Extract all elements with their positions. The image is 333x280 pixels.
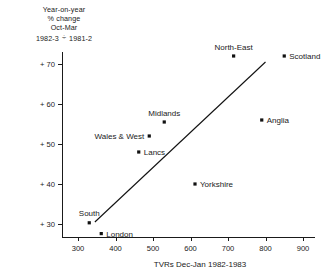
x-tick-label-800: 800: [259, 244, 272, 253]
data-point-north-east: North-East: [215, 43, 254, 58]
point-label: South: [79, 209, 100, 218]
trend-line: [95, 62, 266, 222]
x-tick-label-600: 600: [184, 244, 197, 253]
data-point-south: South: [79, 209, 100, 224]
plot-svg: + 30+ 40+ 50+ 60+ 7030040050060070080090…: [0, 0, 333, 280]
point-label: London: [106, 230, 133, 239]
point-label: North-East: [215, 43, 254, 52]
point-label: Wales & West: [94, 132, 145, 141]
point-label: Scotland: [289, 52, 320, 61]
x-tick-label-700: 700: [222, 244, 235, 253]
point-marker: [100, 232, 103, 235]
data-point-yorkshire: Yorkshire: [193, 180, 233, 189]
x-tick-label-500: 500: [147, 244, 160, 253]
axes-layer: + 30+ 40+ 50+ 60+ 7030040050060070080090…: [40, 52, 315, 253]
y-tick-label-60: + 60: [40, 100, 55, 109]
data-point-wales-west: Wales & West: [94, 132, 150, 141]
x-tick-label-300: 300: [72, 244, 85, 253]
scatter-chart: Year-on-year % change Oct-Mar 1982-3÷198…: [0, 0, 333, 280]
data-points-layer: ScotlandNorth-EastAngliaMidlandsWales & …: [79, 43, 321, 239]
point-label: Anglia: [267, 116, 290, 125]
point-marker: [232, 54, 235, 57]
y-tick-label-70: + 70: [40, 60, 55, 69]
data-point-lancs: Lancs: [137, 148, 165, 157]
point-label: Yorkshire: [200, 180, 234, 189]
point-label: Lancs: [144, 148, 165, 157]
point-marker: [260, 118, 263, 121]
data-point-midlands: Midlands: [148, 109, 180, 124]
x-axis-title: TVRs Dec-Jan 1982-1983: [154, 260, 247, 269]
point-marker: [193, 182, 196, 185]
point-label: Midlands: [148, 109, 180, 118]
point-marker: [148, 134, 151, 137]
x-axis-title-layer: TVRs Dec-Jan 1982-1983: [154, 260, 247, 269]
y-tick-label-30: + 30: [40, 220, 55, 229]
trend-line-layer: [95, 62, 266, 222]
y-tick-label-50: + 50: [40, 140, 55, 149]
y-tick-label-40: + 40: [40, 180, 55, 189]
x-tick-label-900: 900: [297, 244, 310, 253]
point-marker: [88, 221, 91, 224]
point-marker: [137, 150, 140, 153]
x-tick-label-400: 400: [109, 244, 122, 253]
data-point-scotland: Scotland: [283, 52, 321, 61]
point-marker: [283, 54, 286, 57]
data-point-anglia: Anglia: [260, 116, 289, 125]
point-marker: [163, 120, 166, 123]
